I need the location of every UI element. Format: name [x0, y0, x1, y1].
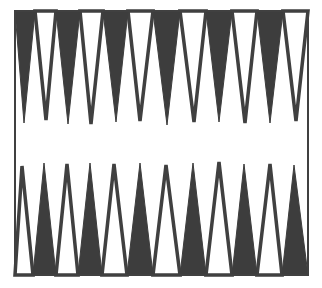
backgammon-board [0, 0, 322, 288]
board-point-19[interactable] [153, 165, 180, 275]
board-point-6[interactable] [128, 11, 153, 121]
board-point-11[interactable] [257, 11, 283, 123]
board-point-17[interactable] [102, 164, 127, 275]
board-point-13[interactable] [15, 166, 33, 275]
board-point-9[interactable] [206, 11, 232, 122]
board-point-10[interactable] [232, 11, 257, 123]
board-point-7[interactable] [153, 11, 180, 125]
board-point-18[interactable] [127, 163, 153, 275]
board-point-14[interactable] [33, 163, 56, 275]
board-point-5[interactable] [103, 11, 128, 122]
board-point-16[interactable] [78, 163, 102, 275]
board-point-24[interactable] [282, 165, 308, 275]
board-point-23[interactable] [257, 164, 282, 275]
board-point-2[interactable] [35, 11, 56, 120]
bottom-points-row [15, 162, 308, 275]
board-point-15[interactable] [56, 164, 78, 275]
board-point-4[interactable] [80, 11, 103, 124]
board-point-22[interactable] [232, 164, 257, 275]
board-point-21[interactable] [206, 162, 232, 275]
board-point-8[interactable] [180, 11, 206, 122]
board-canvas [0, 0, 322, 288]
board-point-3[interactable] [56, 11, 80, 124]
board-point-1[interactable] [15, 11, 35, 123]
top-points-row [15, 11, 308, 125]
board-point-20[interactable] [180, 163, 206, 275]
board-point-12[interactable] [283, 11, 308, 121]
